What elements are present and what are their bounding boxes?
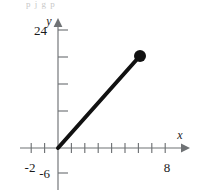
y-axis-arrow-icon (54, 18, 63, 27)
cropped-header-text: p j g p (26, 0, 116, 9)
graph-figure: p j g p x -2 8 (0, 0, 197, 192)
x-axis-arrow-icon (181, 144, 190, 153)
y-axis: y 24 -6 (34, 14, 68, 190)
y-axis-ticks (58, 30, 68, 173)
x-axis-label: x (176, 128, 183, 142)
data-series-segment (58, 50, 146, 148)
endpoint-filled-circle-marker (134, 50, 146, 62)
x-tick-label-right: 8 (164, 160, 171, 175)
y-tick-label-top: 24 (34, 23, 48, 38)
x-tick-label-left: -2 (25, 160, 36, 175)
line-segment (58, 57, 139, 148)
coordinate-plane: x -2 8 y 24 -6 (0, 0, 197, 192)
y-tick-label-bottom: -6 (39, 166, 50, 181)
